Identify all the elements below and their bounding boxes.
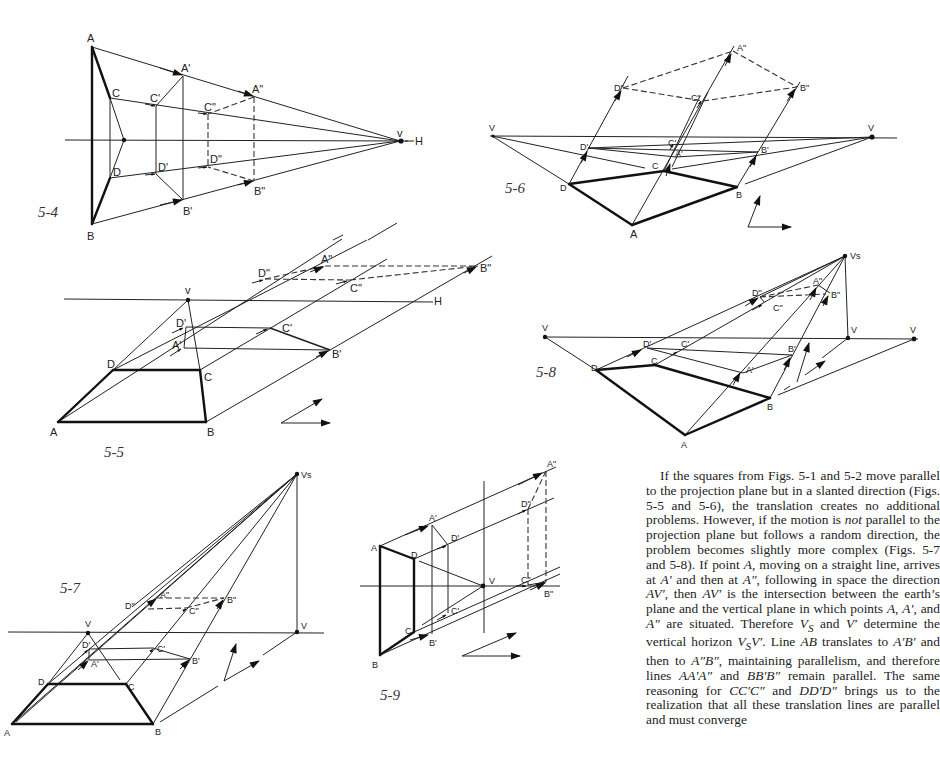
label-A: A [630,228,638,240]
label-A1: A' [746,365,754,375]
label-H: H [415,135,423,147]
figure-5-7: A B C D A' B' C' D' A" B" C" D" V V Vs 5… [4,470,324,738]
figure-caption-5-9: 5-9 [380,687,400,703]
label-A2: A" [252,83,263,95]
label-V-right: V [910,325,916,335]
horizon-line [490,136,897,138]
label-D1: D' [451,533,459,543]
label-A1: A' [172,339,181,351]
figure-5-5: A B C D A' B' C' D' A" B" C" D" v H 5-5 [50,239,492,460]
label-D: D [113,166,121,178]
label-H: H [434,295,442,307]
figure-5-9: A B C D A' B' C' D' A" B" C" D" V 5-9 [360,459,560,703]
figure-5-6: A B C D A' B' C' D' A" B" C" D" V V 5-6 [489,43,897,240]
figure-5-8: A B C D A' B' C' D' A" B" C" D" V V V Vs… [536,251,918,450]
label-C2: C" [350,282,362,294]
label-v: v [397,127,403,139]
vanishing-point-v [186,298,190,302]
label-A2: A" [321,253,332,265]
label-D2: D" [258,267,270,279]
label-V: V [85,619,91,629]
horizon-line [545,337,918,339]
label-Vs: Vs [301,470,312,480]
label-D: D [591,363,598,373]
vertical-horizon [845,256,848,338]
label-A2: A" [547,459,556,469]
label-B: B [736,190,742,200]
label-B1: B' [788,344,796,354]
label-A2: A" [813,276,822,286]
label-D1: D' [82,640,90,650]
label-C1: C' [282,322,292,334]
label-A2: A" [160,590,169,600]
label-B1: B' [761,145,769,155]
label-B: B [87,230,94,242]
edge-AC [92,47,110,98]
horizon-line [8,632,324,633]
figure-caption-5-8: 5-8 [536,364,556,380]
label-D: D [107,358,115,370]
label-A1: A' [91,659,99,669]
label-C2: C" [691,93,701,103]
label-B1: B' [183,205,192,217]
label-C: C [652,161,659,171]
horizon-line [65,140,408,141]
label-B2: B" [254,185,265,197]
label-D2: D" [210,153,222,165]
label-D: D [411,550,418,560]
label-C2: C" [521,575,531,585]
label-V-right: V [868,123,874,133]
label-C: C [112,87,120,99]
figure-caption-5-6: 5-6 [505,180,525,196]
vanishing-point-v [398,138,403,143]
label-A1: A' [181,62,190,74]
label-D1: D' [580,142,588,152]
label-B1: B' [192,656,200,666]
label-D2: D" [125,601,135,611]
label-V: V [489,576,495,586]
label-B2: B" [800,83,809,93]
label-B: B [207,426,214,438]
label-A: A [50,426,58,438]
label-B1: B' [332,348,341,360]
figure-5-4: A B C D A' B' C' D' A" B" C" D" v H 5-4 [38,32,423,242]
label-D2: D" [614,83,624,93]
label-V2: V [301,621,307,631]
label-B: B [767,402,773,412]
label-D: D [560,183,567,193]
figure-caption-5-7: 5-7 [60,580,81,596]
label-D: D [38,677,45,687]
label-V-left: V [489,123,495,133]
label-A1: A' [429,513,437,523]
body-paragraph: If the squares from Figs. 5-1 and 5-2 mo… [646,469,940,728]
label-C1: C' [451,606,459,616]
label-B2: B" [544,589,553,599]
label-C2: C" [204,101,216,113]
label-C1: C' [157,644,165,654]
label-C: C [128,682,135,692]
label-B1: B' [429,638,437,648]
label-V-mid: V [851,325,857,335]
label-A2: A" [737,43,746,53]
label-C2: C" [773,303,783,313]
label-V-left: V [542,323,548,333]
label-A: A [681,440,687,450]
label-C1: C' [681,339,689,349]
label-A1: A' [675,149,683,159]
label-C1: C' [150,92,160,104]
label-A: A [4,728,10,738]
label-A: A [371,543,377,553]
edge-BD [92,178,110,224]
label-v: v [185,284,191,296]
label-C: C [204,371,212,383]
label-B2: B" [831,290,840,300]
label-B: B [372,660,378,670]
label-B2: B" [227,595,236,605]
label-C: C [405,626,412,636]
figure-caption-5-5: 5-5 [104,444,124,460]
label-D2: D" [521,499,531,509]
label-B: B [155,727,161,737]
label-D1: D' [158,161,168,173]
label-D1: D' [176,317,186,329]
body-text-column: If the squares from Figs. 5-1 and 5-2 mo… [646,469,940,728]
